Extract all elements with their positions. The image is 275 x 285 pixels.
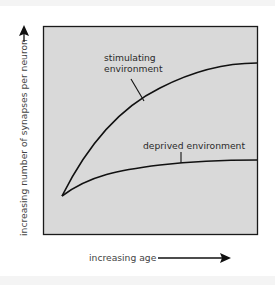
y-axis-label: increasing number of synapses per neuron xyxy=(18,39,29,236)
stimulating-label-line2: environment xyxy=(104,63,163,74)
stimulating-label-line1: stimulating xyxy=(104,52,156,63)
arrow-right-icon xyxy=(158,253,231,263)
deprived-label: deprived environment xyxy=(143,140,245,151)
chart: stimulating environment deprived environ… xyxy=(0,0,275,285)
x-axis-label: increasing age xyxy=(89,252,157,263)
